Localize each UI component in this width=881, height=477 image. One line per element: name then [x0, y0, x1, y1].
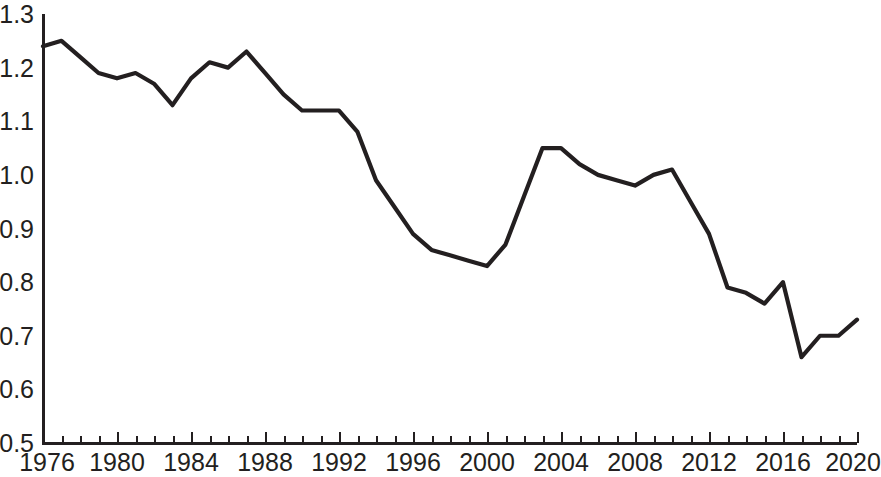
x-axis-tick-label: 1992	[311, 448, 367, 476]
y-axis-tick-label: 0.9	[0, 215, 34, 243]
x-axis-tick-label: 2004	[533, 448, 589, 476]
x-axis-tick-label: 2000	[459, 448, 515, 476]
x-axis-tick-label: 2012	[681, 448, 737, 476]
x-axis-tick-label: 1976	[19, 448, 75, 476]
plot-axes	[44, 14, 858, 444]
chart-canvas: 1.31.21.11.00.90.80.70.60.5 197619801984…	[0, 0, 881, 477]
y-axis-tick-label: 1.0	[0, 161, 34, 189]
x-axis-tick-label: 2008	[607, 448, 663, 476]
x-axis-tick-labels: 1976198019841988199219962000200420082012…	[19, 448, 881, 476]
data-series-line	[43, 41, 857, 357]
y-axis-tick-label: 0.6	[0, 375, 34, 403]
x-axis-tick-label: 1988	[237, 448, 293, 476]
x-axis-tick-label: 1980	[89, 448, 145, 476]
y-axis-tick-label: 1.2	[0, 54, 34, 82]
x-axis-minor-ticks	[44, 432, 858, 443]
y-axis-tick-label: 0.7	[0, 322, 34, 350]
y-axis-tick-label: 1.1	[0, 107, 34, 135]
y-axis-tick-labels: 1.31.21.11.00.90.80.70.60.5	[0, 0, 34, 457]
y-axis-tick-label: 1.3	[0, 0, 34, 28]
x-axis-tick-label: 1996	[385, 448, 441, 476]
x-axis-tick-label: 1984	[163, 448, 219, 476]
line-chart: 1.31.21.11.00.90.80.70.60.5 197619801984…	[0, 0, 881, 477]
y-axis-tick-label: 0.8	[0, 268, 34, 296]
x-axis-tick-label: 2016	[755, 448, 811, 476]
x-axis-tick-label: 2020	[825, 448, 881, 476]
